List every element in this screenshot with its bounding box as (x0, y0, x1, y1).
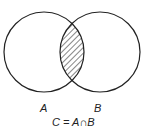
label-b: B (94, 102, 101, 114)
label-a: A (39, 102, 47, 114)
venn-diagram: A B C = A∩B (0, 0, 145, 129)
caption: C = A∩B (52, 116, 95, 128)
